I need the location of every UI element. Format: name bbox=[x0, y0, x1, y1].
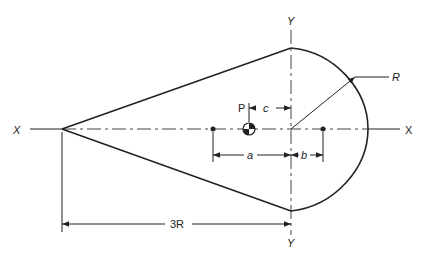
x-axis-label-left: X bbox=[12, 124, 21, 136]
shape-upper-edge bbox=[62, 48, 291, 129]
radius-arrow bbox=[291, 77, 355, 129]
y-axis-label-top: Y bbox=[287, 15, 295, 27]
centroid-symbol bbox=[243, 123, 255, 135]
x-axis-label-right: X bbox=[405, 124, 413, 136]
point-a-end bbox=[211, 127, 216, 132]
shape-lower-edge bbox=[62, 129, 291, 211]
radius-label: R bbox=[392, 71, 400, 83]
dim-b-label: b bbox=[301, 149, 307, 161]
dim-a-label: a bbox=[247, 149, 253, 161]
dim-c-label: c bbox=[263, 102, 269, 114]
dim-3r-label: 3R bbox=[170, 218, 184, 230]
point-b-end bbox=[321, 127, 326, 132]
centroid-diagram: X X Y Y R P c a b 3R bbox=[0, 0, 422, 261]
y-axis-label-bottom: Y bbox=[287, 237, 295, 249]
centroid-label: P bbox=[238, 102, 245, 114]
